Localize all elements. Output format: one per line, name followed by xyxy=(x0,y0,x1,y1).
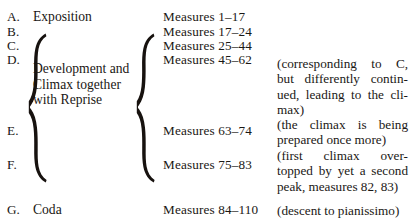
annotation-e: (the climax is being prepared once more) xyxy=(277,117,408,148)
measures-c: Measures 25–44 xyxy=(163,39,252,52)
annotation-g-line-1: (descent to pianissimo) xyxy=(277,203,408,218)
section-letter-f: F. xyxy=(7,158,17,171)
section-letter-b: B. xyxy=(7,25,19,38)
annotation-f-line-1: (first climax over- xyxy=(277,148,408,163)
section-letter-e: E. xyxy=(7,124,19,137)
measures-d: Measures 45–62 xyxy=(163,53,252,66)
annotation-g: (descent to pianissimo) xyxy=(277,203,408,218)
measures-a: Measures 1–17 xyxy=(163,10,245,23)
annotation-d-line-3: ued, leading to the cli- xyxy=(277,87,408,102)
annotation-d-line-4: max) xyxy=(277,102,408,117)
annotation-d-line-1: (corresponding to C, xyxy=(277,56,408,71)
annotation-e-line-1: (the climax is being xyxy=(277,117,408,132)
measures-g: Measures 84–110 xyxy=(163,203,258,216)
group-label-line-1: Development and xyxy=(33,61,143,77)
section-letter-g: G. xyxy=(7,203,20,216)
annotation-d: (corresponding to C, but differently con… xyxy=(277,56,408,118)
annotation-d-line-2: but differently contin- xyxy=(277,71,408,86)
group-label-line-2: Climax together xyxy=(33,77,143,93)
section-name-coda: Coda xyxy=(33,203,62,217)
section-letter-c: C. xyxy=(7,39,19,52)
section-letter-a: A. xyxy=(7,10,20,23)
group-label-line-3: with Reprise xyxy=(33,92,143,108)
section-name-exposition: Exposition xyxy=(33,10,92,24)
section-name-group-development-climax-reprise: Development and Climax together with Rep… xyxy=(33,61,143,108)
annotation-f-line-2: topped by yet a second xyxy=(277,163,408,178)
formal-structure-outline: A. B. C. D. E. F. G. Exposition Coda Dev… xyxy=(0,0,412,223)
measures-b: Measures 17–24 xyxy=(163,25,252,38)
section-letter-d: D. xyxy=(7,53,20,66)
annotation-f-line-3: peak, measures 82, 83) xyxy=(277,179,408,194)
measures-f: Measures 75–83 xyxy=(163,158,252,171)
measures-e: Measures 63–74 xyxy=(163,124,252,137)
annotation-e-line-2: prepared once more) xyxy=(277,132,408,147)
annotation-f: (first climax over- topped by yet a seco… xyxy=(277,148,408,194)
